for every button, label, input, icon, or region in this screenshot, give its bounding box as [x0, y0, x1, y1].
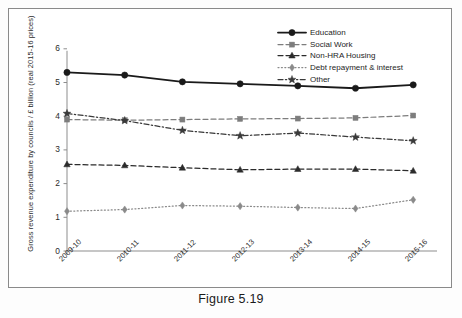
- legend-label: Education: [310, 27, 346, 38]
- legend-item-non-hra-housing: Non-HRA Housing: [277, 50, 403, 62]
- legend-marker-diamond-icon: [277, 62, 307, 73]
- series-debt-repayment-interest: [65, 196, 416, 215]
- chart-legend: EducationSocial WorkNon-HRA HousingDebt …: [277, 27, 403, 85]
- y-tick-label: 6: [46, 43, 60, 53]
- legend-label: Non-HRA Housing: [310, 50, 375, 61]
- legend-item-debt-repayment-interest: Debt repayment & interest: [277, 62, 403, 74]
- y-tick-label: 1: [46, 212, 60, 222]
- legend-label: Debt repayment & interest: [310, 62, 403, 73]
- series-non-hra-housing: [64, 161, 417, 173]
- y-tick-label: 2: [46, 178, 60, 188]
- figure-caption: Figure 5.19: [0, 292, 462, 306]
- legend-item-other: Other: [277, 73, 403, 85]
- legend-item-social-work: Social Work: [277, 39, 403, 51]
- legend-marker-square-icon: [277, 39, 307, 50]
- figure-page: Gross revenue expenditure by councils / …: [0, 0, 462, 318]
- chart-plot-area: Gross revenue expenditure by councils / …: [9, 9, 453, 289]
- y-tick-label: 5: [46, 77, 60, 87]
- y-tick-label: 4: [46, 111, 60, 121]
- series-social-work: [65, 113, 416, 123]
- series-other: [63, 109, 417, 144]
- legend-marker-circle-icon: [277, 27, 307, 38]
- legend-label: Other: [310, 74, 330, 85]
- y-tick-label: 0: [46, 246, 60, 256]
- legend-marker-triangle-icon: [277, 50, 307, 61]
- legend-marker-star-icon: [277, 74, 307, 85]
- legend-label: Social Work: [310, 39, 353, 50]
- legend-item-education: Education: [277, 27, 403, 39]
- figure-frame: Gross revenue expenditure by councils / …: [8, 8, 452, 288]
- y-tick-label: 3: [46, 144, 60, 154]
